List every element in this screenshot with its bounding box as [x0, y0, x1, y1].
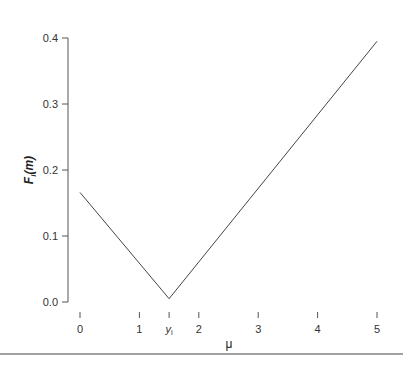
y-tick-label: 0.4	[43, 32, 58, 44]
y-tick-label: 0.3	[43, 98, 58, 110]
y-tick-label: 0.1	[43, 230, 58, 242]
y-tick-label: 0.0	[43, 296, 58, 308]
x-tick-label: 1	[136, 323, 142, 335]
x-tick-label: 0	[77, 323, 83, 335]
x-tick-label: 2	[196, 323, 202, 335]
y-axis-title: Fi(m)	[22, 156, 38, 184]
data-line	[80, 41, 377, 298]
x-axis-title: μ	[226, 337, 233, 351]
x-tick-label: 5	[374, 323, 380, 335]
y-tick-label: 0.2	[43, 164, 58, 176]
chart: 0.00.10.20.30.4 Fi(m) 01yi2345 μ	[0, 0, 413, 368]
x-tick-label: 3	[255, 323, 261, 335]
x-tick-label: 4	[315, 323, 321, 335]
y-axis: 0.00.10.20.30.4	[43, 32, 68, 308]
x-axis: 01yi2345	[77, 312, 380, 337]
x-tick-label: yi	[164, 323, 173, 337]
